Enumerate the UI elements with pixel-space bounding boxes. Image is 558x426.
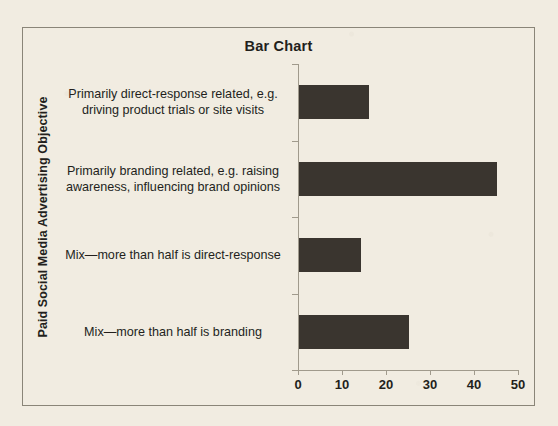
bar-rows: Primarily direct-response related, e.g. …: [23, 64, 536, 370]
x-axis-tick-label: 10: [335, 377, 349, 392]
plot-area: Primarily direct-response related, e.g. …: [23, 64, 536, 370]
x-axis-tick: [342, 370, 343, 375]
x-axis-tick: [298, 370, 299, 375]
bar[interactable]: [299, 315, 409, 349]
bar-row: Primarily direct-response related, e.g. …: [23, 64, 536, 141]
bar-row: Primarily branding related, e.g. raising…: [23, 141, 536, 218]
x-axis-tick-labels: 0 10 20 30 40 50: [23, 377, 536, 399]
bar[interactable]: [299, 162, 497, 196]
x-axis-tick-label: 40: [467, 377, 481, 392]
chart-title: Bar Chart: [23, 38, 534, 54]
bar-row: Mix—more than half is direct-response: [23, 217, 536, 294]
chart-frame: Bar Chart Paid Social Media Advertising …: [22, 27, 535, 406]
bar-row: Mix—more than half is branding: [23, 294, 536, 371]
x-axis-tick-label: 20: [379, 377, 393, 392]
category-label: Mix—more than half is branding: [53, 324, 293, 340]
x-axis-tick: [386, 370, 387, 375]
x-axis-tick-label: 50: [511, 377, 525, 392]
category-label: Primarily branding related, e.g. raising…: [53, 163, 293, 195]
bar[interactable]: [299, 238, 361, 272]
x-axis-tick-label: 30: [423, 377, 437, 392]
category-label: Primarily direct-response related, e.g. …: [53, 86, 293, 118]
category-label: Mix—more than half is direct-response: [53, 247, 293, 263]
x-axis-tick: [474, 370, 475, 375]
x-axis-tick-label: 0: [294, 377, 301, 392]
x-axis-tick: [518, 370, 519, 375]
x-axis-ticks: [23, 370, 536, 376]
x-axis-tick: [430, 370, 431, 375]
bar[interactable]: [299, 85, 369, 119]
